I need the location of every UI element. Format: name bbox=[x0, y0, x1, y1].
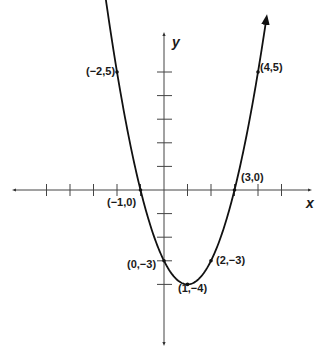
point-label-neg2-5: (−2,5) bbox=[86, 65, 115, 77]
point-label-4-5: (4,5) bbox=[260, 61, 283, 73]
x-axis bbox=[14, 184, 310, 196]
point-label-2-neg3: (2,−3) bbox=[216, 254, 245, 266]
x-axis-label: x bbox=[305, 195, 315, 211]
data-point bbox=[162, 259, 166, 263]
point-label-1-neg4: (1,−4) bbox=[178, 282, 207, 294]
data-point bbox=[233, 188, 237, 192]
y-axis-label: y bbox=[171, 34, 181, 50]
parabola-graph: x y (−2,5) (4,5) (−1,0) (3,0) (0,−3) (2,… bbox=[0, 0, 324, 355]
point-label-3-0: (3,0) bbox=[241, 171, 264, 183]
data-point bbox=[209, 259, 213, 263]
data-point bbox=[139, 188, 143, 192]
point-label-0-neg3: (0,−3) bbox=[127, 258, 156, 270]
parabola-curve bbox=[104, 0, 266, 284]
point-label-neg1-0: (−1,0) bbox=[107, 196, 136, 208]
data-point bbox=[115, 70, 119, 74]
y-axis bbox=[157, 34, 172, 344]
